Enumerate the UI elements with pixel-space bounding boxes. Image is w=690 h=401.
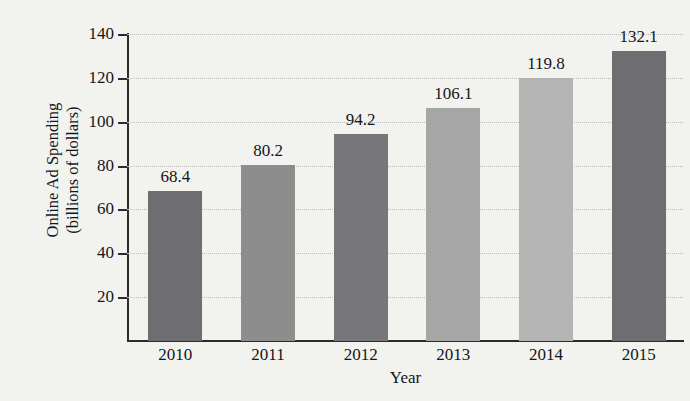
gridline xyxy=(127,34,683,35)
x-tick-label: 2011 xyxy=(251,345,284,365)
y-tick-mark xyxy=(118,122,127,124)
x-tick-label: 2010 xyxy=(158,345,192,365)
y-tick-mark xyxy=(118,166,127,168)
y-tick-label: 20 xyxy=(97,287,114,307)
y-tick-label: 40 xyxy=(97,243,114,263)
bar-value-label: 94.2 xyxy=(346,110,376,130)
y-axis-title-line-2: (billions of dollars) xyxy=(63,103,83,238)
y-tick-mark xyxy=(118,297,127,299)
bar-value-label: 119.8 xyxy=(527,54,565,74)
y-tick-mark xyxy=(118,34,127,36)
bar-chart: Online Ad Spending (billions of dollars)… xyxy=(0,0,690,401)
gridline xyxy=(127,122,683,123)
x-axis-title: Year xyxy=(127,368,684,388)
y-tick-label: 140 xyxy=(89,24,115,44)
y-tick-mark xyxy=(118,78,127,80)
bar: 68.4 xyxy=(148,191,202,341)
gridline xyxy=(127,253,683,254)
bar-value-label: 68.4 xyxy=(160,167,190,187)
gridline xyxy=(127,78,683,79)
y-tick-label: 80 xyxy=(97,156,114,176)
y-tick-mark xyxy=(118,253,127,255)
x-tick-label: 2014 xyxy=(529,345,563,365)
bar: 119.8 xyxy=(519,78,573,341)
bar: 94.2 xyxy=(334,134,388,341)
bar-value-label: 106.1 xyxy=(434,84,472,104)
gridline xyxy=(127,297,683,298)
y-tick-label: 60 xyxy=(97,199,114,219)
x-tick-label: 2012 xyxy=(344,345,378,365)
x-tick-label: 2013 xyxy=(436,345,470,365)
gridline xyxy=(127,209,683,210)
y-axis-title-line-1: Online Ad Spending xyxy=(43,103,63,238)
bar: 80.2 xyxy=(241,165,295,341)
bar: 106.1 xyxy=(426,108,480,341)
y-tick-label: 120 xyxy=(89,68,115,88)
bar: 132.1 xyxy=(612,51,666,341)
y-tick-mark xyxy=(118,209,127,211)
y-tick-label: 100 xyxy=(89,112,115,132)
bar-value-label: 132.1 xyxy=(620,27,658,47)
bar-value-label: 80.2 xyxy=(253,141,283,161)
plot-area: 2040608010012014068.480.294.2106.1119.81… xyxy=(127,34,683,341)
gridline xyxy=(127,166,683,167)
x-tick-label: 2015 xyxy=(622,345,656,365)
